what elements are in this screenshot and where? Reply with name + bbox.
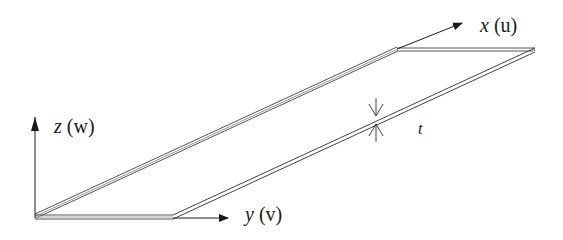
- plate-diagram: x (u) z (w) y (v) t: [0, 0, 563, 240]
- thickness-label: t: [418, 120, 422, 138]
- y-variable: y: [245, 203, 254, 225]
- y-axis-label: y (v): [245, 203, 282, 226]
- x-variable: x: [480, 14, 489, 36]
- x-axis-label: x (u): [480, 14, 517, 37]
- z-variable: z: [54, 115, 62, 137]
- plate: [35, 47, 535, 219]
- z-axis-label: z (w): [54, 115, 95, 138]
- x-axis: [397, 23, 462, 49]
- y-displacement: (v): [259, 203, 282, 225]
- z-displacement: (w): [67, 115, 95, 137]
- x-displacement: (u): [494, 14, 517, 36]
